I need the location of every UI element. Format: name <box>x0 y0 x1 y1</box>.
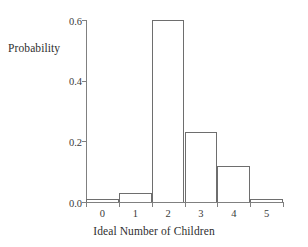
x-tick-label-5: 5 <box>264 208 269 219</box>
y-tick-mark <box>82 20 86 21</box>
x-tick-label-0: 0 <box>100 208 105 219</box>
bar-3 <box>185 132 218 202</box>
y-tick-mark <box>82 81 86 82</box>
y-tick-label: 0.0 <box>69 197 82 208</box>
x-tick-label-4: 4 <box>231 208 236 219</box>
bar-1 <box>119 193 152 202</box>
bar-4 <box>217 166 250 202</box>
x-tick-mark <box>250 202 251 207</box>
x-tick-mark <box>217 202 218 207</box>
plot-area: 0.00.20.40.6 012345 <box>86 20 283 203</box>
x-tick-label-2: 2 <box>165 208 170 219</box>
x-tick-mark <box>152 202 153 207</box>
x-tick-mark <box>86 202 87 207</box>
y-axis-line <box>86 20 87 203</box>
y-tick-label: 0.4 <box>69 76 82 87</box>
y-tick-label: 0.2 <box>69 136 82 147</box>
y-axis-title: Probability <box>8 42 60 54</box>
x-tick-mark <box>185 202 186 207</box>
y-tick-mark <box>82 141 86 142</box>
y-tick-label: 0.6 <box>69 15 82 26</box>
bar-5 <box>250 199 283 202</box>
y-tick-2: 0.4 <box>86 81 87 82</box>
chart-figure: Probability 0.00.20.40.6 012345 Ideal Nu… <box>0 0 308 247</box>
x-tick-mark <box>283 202 284 207</box>
x-tick-label-3: 3 <box>198 208 203 219</box>
x-tick-label-1: 1 <box>133 208 138 219</box>
bar-0 <box>86 199 119 202</box>
y-tick-3: 0.6 <box>86 20 87 21</box>
x-tick-mark <box>119 202 120 207</box>
bar-2 <box>152 20 185 202</box>
x-axis-title: Ideal Number of Children <box>0 225 308 237</box>
y-tick-1: 0.2 <box>86 141 87 142</box>
